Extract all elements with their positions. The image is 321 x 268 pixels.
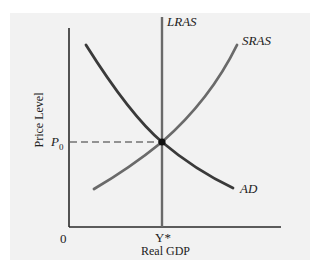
ad-label: AD — [240, 182, 257, 195]
ad-curve — [86, 45, 233, 188]
origin-label: 0 — [60, 232, 67, 245]
sras-curve — [94, 45, 237, 189]
y-star-label: Y* — [155, 231, 171, 244]
sras-label: SRAS — [242, 34, 271, 47]
lras-label: LRAS — [167, 15, 197, 28]
p0-label: P0 — [51, 135, 63, 152]
p0-subscript: 0 — [59, 142, 64, 152]
diagram-canvas — [0, 0, 321, 268]
equilibrium-point — [158, 138, 165, 145]
x-axis-label: Real GDP — [141, 245, 190, 257]
p0-letter: P — [51, 134, 59, 149]
y-axis-label: Price Level — [33, 89, 45, 151]
